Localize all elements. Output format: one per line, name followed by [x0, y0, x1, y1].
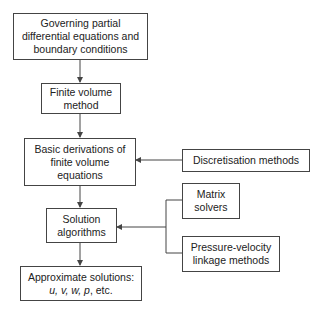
box-label: Discretisation methods — [193, 154, 299, 167]
box-finite-volume-method: Finite volume method — [41, 83, 121, 114]
suffix-text: , etc. — [90, 284, 113, 296]
box-basic-derivations: Basic derivations of finite volume equat… — [24, 138, 136, 186]
variables-text: u, v, w, p — [49, 284, 90, 296]
box-label-line1: Approximate solutions: — [28, 271, 134, 284]
box-label: Finite volume method — [50, 86, 112, 112]
box-solution-algorithms: Solution algorithms — [46, 208, 117, 243]
box-label: Pressure-velocity linkage methods — [191, 241, 272, 267]
box-pressure-velocity-linkage: Pressure-velocity linkage methods — [182, 236, 280, 272]
box-label-line2: u, v, w, p, etc. — [28, 284, 134, 297]
box-label: Basic derivations of finite volume equat… — [34, 143, 125, 182]
box-approximate-solutions: Approximate solutions: u, v, w, p, etc. — [20, 266, 142, 301]
box-discretisation-methods: Discretisation methods — [182, 149, 310, 172]
box-matrix-solvers: Matrix solvers — [182, 183, 240, 219]
box-label: Solution algorithms — [57, 213, 105, 239]
box-governing-equations: Governing partial differential equations… — [13, 13, 148, 60]
box-label: Matrix solvers — [194, 188, 227, 214]
box-label: Governing partial differential equations… — [22, 17, 139, 56]
